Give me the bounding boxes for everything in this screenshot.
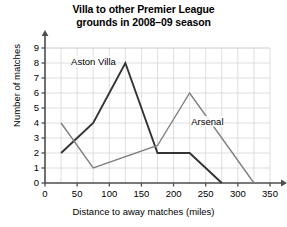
y-tick-4: 4 (25, 117, 39, 128)
y-tick-5: 5 (25, 102, 39, 113)
x-tick-150: 150 (128, 188, 154, 199)
axis-ticks (42, 48, 271, 187)
y-tick-2: 2 (25, 147, 39, 158)
chart-container: Villa to other Premier League grounds in… (0, 0, 287, 227)
gridlines (45, 48, 270, 183)
x-tick-50: 50 (64, 188, 90, 199)
y-tick-8: 8 (25, 57, 39, 68)
x-tick-350: 350 (257, 188, 283, 199)
x-tick-100: 100 (96, 188, 122, 199)
series-label-aston-villa: Aston Villa (71, 56, 116, 67)
y-tick-3: 3 (25, 132, 39, 143)
x-tick-0: 0 (32, 188, 58, 199)
y-tick-6: 6 (25, 87, 39, 98)
y-tick-1: 1 (25, 162, 39, 173)
y-tick-0: 0 (25, 177, 39, 188)
y-tick-7: 7 (25, 72, 39, 83)
x-tick-200: 200 (161, 188, 187, 199)
x-tick-300: 300 (225, 188, 251, 199)
series-label-arsenal: Arsenal (191, 116, 223, 127)
x-tick-250: 250 (193, 188, 219, 199)
y-tick-9: 9 (25, 42, 39, 53)
